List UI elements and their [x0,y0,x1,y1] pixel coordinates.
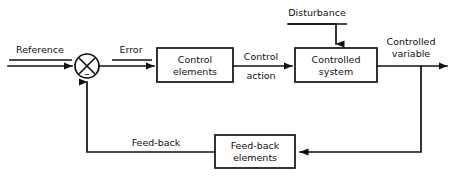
control-elements-label-line2: elements [173,66,217,77]
feedback-label: Feed-back [132,137,181,148]
control-action-label-line1: Control [244,51,278,62]
controlled-system-label-line2: system [319,66,353,77]
controlled-system-block: Controlled system [295,48,377,82]
disturbance-arrow [288,24,336,44]
controlled-variable-signal-group: Controlled variable [377,36,447,67]
controlled-variable-label-line2: variable [392,48,430,59]
reference-label: Reference [16,44,64,55]
controlled-system-label-line1: Controlled [312,54,361,65]
controlled-variable-label-line1: Controlled [387,36,436,47]
feedback-signal-group: Feed-back [87,82,215,152]
disturbance-label: Disturbance [288,7,346,18]
summing-junction-group: – [75,54,99,80]
error-label: Error [119,44,142,55]
control-action-label-line2: action [246,70,275,81]
feedback-elements-block: Feed-back elements [215,135,295,168]
feedback-elements-label-line2: elements [233,152,277,163]
control-system-block-diagram: Reference – Error Control elements Contr… [0,0,456,176]
summing-junction-negative-sign: – [84,67,90,80]
control-elements-block: Control elements [157,48,233,82]
error-signal-group: Error [99,44,154,67]
feedback-elements-label-line1: Feed-back [231,140,280,151]
control-action-signal-group: Control action [233,51,292,81]
reference-signal-group: Reference [8,44,72,67]
diagram-canvas: Reference – Error Control elements Contr… [0,0,456,176]
disturbance-signal-group: Disturbance [288,7,347,45]
control-elements-label-line1: Control [178,54,212,65]
